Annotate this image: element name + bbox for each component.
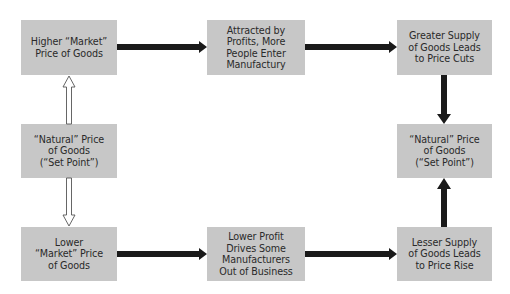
solid-arrow-down-icon — [437, 75, 451, 124]
hollow-arrow-down-icon — [63, 178, 75, 226]
solid-arrow-up-icon — [437, 178, 451, 227]
solid-arrow-right-icon — [305, 248, 397, 260]
node-natural-price-right: “Natural” Price of Goods (“Set Point”) — [397, 124, 492, 178]
solid-arrow-right-icon — [117, 248, 207, 260]
node-attracted-by-profits: Attracted by Profits, More People Enter … — [207, 20, 305, 75]
node-label: Lower “Market” Price of Goods — [35, 237, 103, 272]
solid-arrow-right-icon — [305, 41, 397, 53]
hollow-arrow-up-icon — [63, 76, 75, 124]
node-label: Attracted by Profits, More People Enter … — [226, 25, 285, 71]
node-higher-market-price: Higher “Market” Price of Goods — [21, 20, 117, 75]
node-greater-supply: Greater Supply of Goods Leads to Price C… — [397, 20, 492, 75]
solid-arrow-right-icon — [117, 41, 207, 53]
node-lower-market-price: Lower “Market” Price of Goods — [21, 227, 117, 281]
node-lower-profit: Lower Profit Drives Some Manufacturers O… — [207, 227, 305, 281]
node-lesser-supply: Lesser Supply of Goods Leads to Price Ri… — [397, 227, 492, 281]
node-label: Lesser Supply of Goods Leads to Price Ri… — [408, 237, 480, 272]
node-label: Greater Supply of Goods Leads to Price C… — [408, 30, 480, 65]
node-label: “Natural” Price of Goods (“Set Point”) — [34, 134, 104, 169]
node-label: Lower Profit Drives Some Manufacturers O… — [219, 231, 293, 277]
node-label: “Natural” Price of Goods (“Set Point”) — [409, 134, 479, 169]
node-label: Higher “Market” Price of Goods — [31, 36, 107, 59]
node-natural-price-left: “Natural” Price of Goods (“Set Point”) — [21, 124, 117, 178]
